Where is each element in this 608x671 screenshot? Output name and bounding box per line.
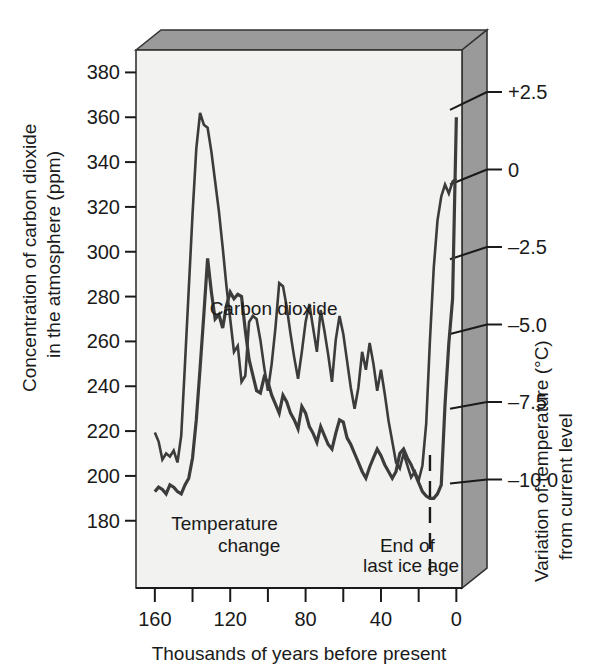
y-tick-label: 340 — [87, 151, 120, 173]
y-tick-label: 380 — [87, 61, 120, 83]
plot-annotation: Carbon dioxide — [210, 298, 338, 319]
y-axis-title-line1: Concentration of carbon dioxide — [19, 124, 40, 392]
y2-axis-title-line1: Variation of temperature (°C) — [531, 340, 552, 582]
plot-annotation: Temperature — [171, 513, 278, 534]
y-tick-label: 260 — [87, 330, 120, 352]
y-tick-label: 200 — [87, 465, 120, 487]
y-axis-title-line2: in the atmosphere (ppm) — [43, 151, 64, 358]
x-tick-label: 160 — [138, 608, 171, 630]
y-tick-label: 280 — [87, 286, 120, 308]
y2-tick-label: –2.5 — [508, 236, 547, 258]
x-tick-label: 40 — [370, 608, 392, 630]
figure-container: 180200220240260280300320340360380 +2.50–… — [0, 0, 608, 671]
x-axis: 16012080400 — [136, 588, 462, 630]
plot-annotation: End of — [380, 535, 436, 556]
y-tick-label: 300 — [87, 241, 120, 263]
co2-temperature-chart: 180200220240260280300320340360380 +2.50–… — [0, 0, 608, 671]
plot-annotation: last ice age — [363, 555, 459, 576]
plot-annotation: change — [218, 535, 280, 556]
y2-tick-label: –5.0 — [508, 314, 547, 336]
x-tick-label: 80 — [294, 608, 316, 630]
y2-axis-title-line2: from current level — [555, 413, 576, 560]
y-tick-label: 220 — [87, 420, 120, 442]
y-tick-label: 240 — [87, 375, 120, 397]
y-tick-label: 360 — [87, 106, 120, 128]
y-tick-label: 320 — [87, 196, 120, 218]
y2-tick-label: +2.5 — [508, 81, 547, 103]
x-tick-label: 0 — [451, 608, 462, 630]
y2-tick-label: 0 — [508, 159, 519, 181]
x-axis-title: Thousands of years before present — [152, 643, 447, 664]
x-tick-label: 120 — [214, 608, 247, 630]
box-top-face — [136, 30, 487, 50]
box-right-face — [462, 30, 487, 588]
y-tick-label: 180 — [87, 510, 120, 532]
left-axis: 180200220240260280300320340360380 — [87, 61, 136, 531]
plot-face — [136, 50, 462, 588]
